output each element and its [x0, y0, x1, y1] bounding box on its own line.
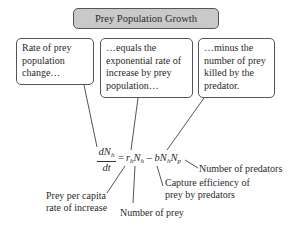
connector-capture: [157, 166, 163, 186]
equation-fraction: dNh dt: [97, 146, 116, 174]
callout-prey-killed: …minus the number of prey killed by the …: [198, 38, 275, 98]
title-box: Prey Population Growth: [73, 8, 219, 29]
label-capture-efficiency-2: prey by predators: [165, 189, 235, 201]
connector-number-of-prey: [133, 166, 135, 203]
connector-exponential: [131, 98, 138, 150]
fraction-numerator: dN: [99, 146, 111, 157]
minus-sign: –: [147, 152, 152, 163]
equals-sign: =: [118, 152, 124, 163]
label-per-capita-1: Prey per capita: [46, 190, 106, 202]
connector-predators: [185, 160, 198, 168]
fraction-denominator: dt: [97, 162, 116, 174]
callout-exponential-rate: …equals the exponential rate of increase…: [100, 38, 193, 98]
equation-rhs: rhNh – bNhNp: [126, 152, 181, 165]
connector-rate-of-change: [84, 85, 97, 147]
connector-minus: [167, 98, 204, 150]
label-number-of-prey: Number of prey: [120, 207, 184, 219]
label-per-capita-2: rate of increase: [46, 202, 107, 214]
callout-rate-of-change: Rate of prey population change…: [16, 38, 94, 85]
label-capture-efficiency-1: Capture efficiency of: [165, 177, 250, 189]
label-number-of-predators: Number of predators: [199, 163, 282, 175]
